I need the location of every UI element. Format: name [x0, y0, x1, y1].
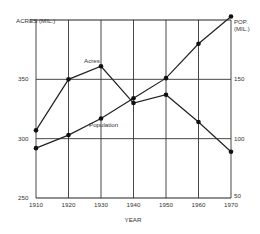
- data-point-acres: [164, 92, 169, 97]
- x-tick-label: 1920: [62, 201, 76, 208]
- y-axis-right-title: POP.: [234, 19, 248, 25]
- data-point-population: [164, 76, 169, 81]
- y-left-tick-label: 250: [18, 194, 29, 201]
- annotation-population: Population: [89, 121, 119, 128]
- x-axis-title: YEAR: [125, 216, 142, 223]
- data-point-population: [196, 41, 201, 46]
- x-tick-label: 1910: [29, 201, 43, 208]
- y-right-tick-label: 50: [234, 192, 241, 199]
- line-chart: ACRES (MIL.)POP.(MIL.)250300350501001501…: [0, 0, 260, 234]
- grid-lines: [36, 20, 231, 198]
- data-point-acres: [229, 149, 234, 154]
- y-axis-left-title: ACRES (MIL.): [16, 17, 55, 24]
- data-point-population: [131, 96, 136, 101]
- x-tick-label: 1960: [192, 201, 206, 208]
- x-tick-label: 1950: [159, 201, 173, 208]
- x-tick-label: 1930: [94, 201, 108, 208]
- data-point-acres: [131, 101, 136, 106]
- y-right-tick-label: 100: [234, 135, 245, 142]
- x-tick-label: 1940: [127, 201, 141, 208]
- data-point-acres: [34, 128, 39, 133]
- plot-frame: [30, 20, 231, 198]
- data-point-acres: [66, 77, 71, 82]
- data-point-population: [66, 133, 71, 138]
- y-right-tick-label: 150: [234, 75, 245, 82]
- y-axis-right-title-unit: (MIL.): [234, 26, 250, 32]
- annotation-acres: Acres: [84, 57, 100, 64]
- x-tick-label: 1970: [224, 201, 238, 208]
- data-point-acres: [196, 120, 201, 125]
- data-point-population: [34, 146, 39, 151]
- axis-labels: ACRES (MIL.)POP.(MIL.)250300350501001501…: [16, 17, 250, 223]
- data-point-acres: [99, 64, 104, 69]
- y-left-tick-label: 350: [18, 75, 29, 82]
- y-left-tick-label: 300: [18, 135, 29, 142]
- data-point-population: [229, 14, 234, 19]
